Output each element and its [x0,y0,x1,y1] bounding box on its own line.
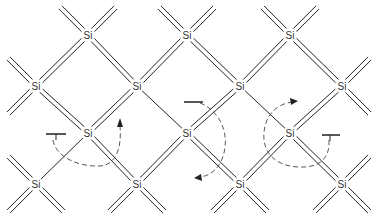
dangling-double-bond [345,191,368,214]
hop-arrow-right [264,98,329,167]
double-bond [194,92,237,130]
dangling-double-bond [108,187,131,210]
dangling-double-bond [293,6,316,29]
dangling-double-bond [214,191,237,214]
dangling-double-bond [349,60,372,83]
broken-bond-marker-left [46,134,66,140]
double-bond [243,137,283,178]
double-bond [91,42,130,83]
dangling-double-bond [247,187,270,210]
dangling-double-bond [7,187,30,210]
dangling-double-bond [43,187,66,210]
double-bond [247,140,287,181]
dangling-double-bond [62,6,85,29]
silicon-atom-label: Si [84,30,93,41]
silicon-atom-label: Si [338,179,347,190]
atom-layer: SiSiSiSiSiSiSiSiSiSiSiSiSiSi [32,30,347,190]
dangling-double-bond [345,57,368,80]
double-bond [294,42,336,83]
dangling-double-bond [345,93,368,116]
silicon-atom-label: Si [286,128,295,139]
dangling-double-bond [91,6,114,29]
double-bond [91,140,130,181]
dangling-double-bond [345,155,368,178]
double-bond [43,42,85,83]
double-bond [294,140,336,181]
dangling-double-bond [211,187,234,210]
silicon-atom-label: Si [338,81,347,92]
dangling-double-bond [10,155,33,178]
double-bond [94,39,133,80]
dangling-double-bond [140,191,163,214]
double-bond [194,136,237,177]
bond-layer [40,38,339,180]
dangling-double-bond [10,57,33,80]
hop-arrow-middle [194,103,225,181]
dangling-double-bond [190,6,213,29]
dangling-double-bond [194,9,217,32]
double-bond [43,89,85,127]
silicon-atom-label: Si [133,81,142,92]
silicon-atom-label: Si [286,30,295,41]
dangling-double-bond [316,191,339,214]
broken-bond-marker-right [322,135,340,141]
double-bond [191,139,234,180]
double-bond [191,89,234,127]
double-bond [297,92,339,130]
double-bond [95,92,134,129]
dangling-double-bond [39,191,62,214]
dangling-double-bond [261,9,284,32]
double-bond [140,137,180,178]
dangling-double-bond [10,191,33,214]
dangling-double-bond [7,158,30,181]
silicon-atom-label: Si [236,179,245,190]
dangling-double-bond [144,187,167,210]
silicon-atom-label: Si [183,30,192,41]
double-bond [92,89,131,126]
silicon-atom-label: Si [183,128,192,139]
silicon-atom-label: Si [32,81,41,92]
dangling-double-bond [161,6,184,29]
dangling-double-bond [313,187,336,210]
single-bond [41,138,83,179]
dangling-double-bond [349,158,372,181]
double-bond [294,89,336,127]
double-bond [144,42,184,83]
dangling-double-bond [297,9,320,32]
dangling-double-bond [243,191,266,214]
dangling-double-bond [349,187,372,210]
double-bond [247,42,287,83]
double-bond [194,38,237,79]
double-bond [94,137,133,178]
double-bond [191,41,234,82]
double-bond [297,38,339,79]
dangling-double-bond [95,9,118,32]
silicon-atom-label: Si [133,179,142,190]
silicon-lattice-diagram: SiSiSiSiSiSiSiSiSiSiSiSiSiSi [0,0,385,221]
single-bond [245,91,285,128]
double-bond [297,136,339,177]
dangling-double-bond [7,89,30,112]
hop-arrow-left [53,118,123,166]
double-bond [243,39,283,80]
dangling-double-bond [111,191,134,214]
double-bond [140,39,180,80]
dangling-double-bond [158,9,181,32]
silicon-atom-label: Si [84,128,93,139]
double-bond [40,92,82,130]
single-bond [142,91,182,128]
double-bond [144,140,184,181]
silicon-atom-label: Si [236,81,245,92]
double-bond [40,38,82,79]
dangling-double-bond [349,89,372,112]
dangling-double-bond [59,9,82,32]
silicon-atom-label: Si [32,179,41,190]
dangling-double-bond [10,93,33,116]
dangling-double-bond [264,6,287,29]
dangling-double-bond [7,60,30,83]
